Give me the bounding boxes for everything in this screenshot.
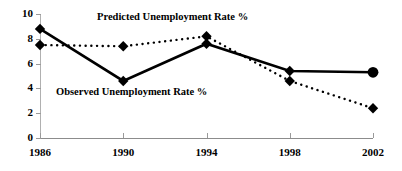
predicted-point-1998 [285, 76, 295, 86]
predicted-point-1994 [201, 31, 211, 41]
predicted-point-1986 [35, 40, 45, 50]
predicted-point-2002 [368, 103, 378, 113]
unemployment-rate-line-chart: 0246810 19861990199419982002 Predicted U… [0, 0, 402, 171]
observed-series-label: Observed Unemployment Rate % [56, 86, 207, 98]
observed-point-2002 [368, 67, 379, 78]
observed-point-1998 [285, 66, 295, 76]
predicted-point-1990 [118, 41, 128, 51]
predicted-series-label: Predicted Unemployment Rate % [97, 11, 248, 23]
